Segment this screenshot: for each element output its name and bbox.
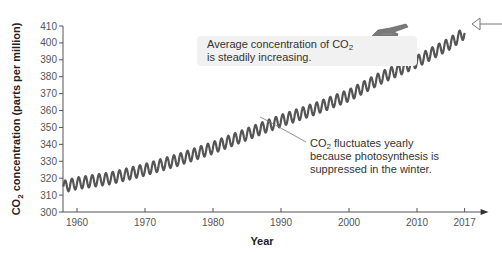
y-tick-label: 400: [40, 37, 57, 48]
x-axis-arrowhead: [481, 209, 489, 215]
y-tick-label: 410: [40, 21, 57, 32]
x-axis: 1960197019801990200020102017: [63, 208, 489, 228]
y-tick-label: 340: [40, 139, 57, 150]
y-axis-title: CO2 concentration (parts per million): [10, 22, 25, 215]
x-tick-label: 1960: [66, 217, 89, 228]
y-axis: 300310320330340350360370380390400410: [40, 21, 63, 218]
y-tick-label: 350: [40, 122, 57, 133]
y-tick-label: 330: [40, 156, 57, 167]
y-tick-label: 320: [40, 173, 57, 184]
x-axis-title: Year: [250, 235, 274, 247]
x-tick-label: 1990: [270, 217, 293, 228]
y-tick-label: 380: [40, 71, 57, 82]
x-tick-label: 2017: [453, 217, 476, 228]
y-tick-label: 310: [40, 190, 57, 201]
x-tick-label: 2000: [338, 217, 361, 228]
average-trend-callout: Average concentration of CO2 is steadily…: [207, 38, 353, 64]
fluctuation-callout: CO2 fluctuates yearly because photosynth…: [310, 137, 500, 176]
y-tick-label: 390: [40, 54, 57, 65]
x-tick-label: 1980: [202, 217, 225, 228]
edge-arrow-icon: [472, 18, 502, 30]
y-tick-label: 370: [40, 88, 57, 99]
x-tick-label: 2010: [406, 217, 429, 228]
y-tick-label: 360: [40, 105, 57, 116]
y-tick-label: 300: [40, 207, 57, 218]
x-tick-label: 1970: [134, 217, 157, 228]
